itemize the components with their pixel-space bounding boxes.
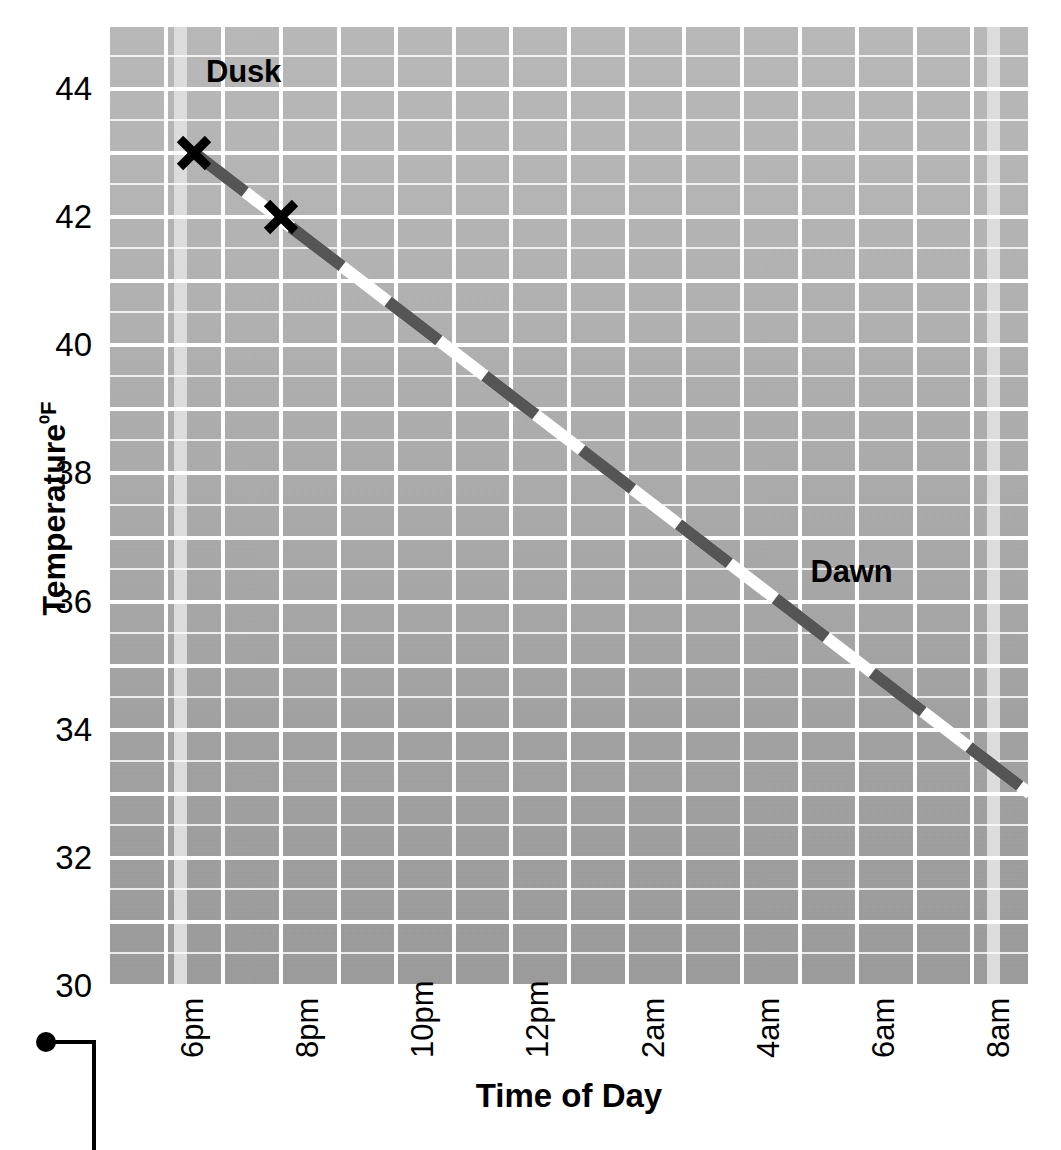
series-line-dashes (194, 153, 1030, 794)
y-tick-label: 32 (10, 841, 92, 874)
y-tick-label: 42 (10, 200, 92, 233)
y-tick-label: 44 (10, 72, 92, 105)
x-tick-label: 6pm (177, 998, 208, 1058)
x-tick-label: 8am (983, 998, 1014, 1058)
y-axis-title-text: Temperature (36, 424, 72, 615)
callout-leader-line (34, 1030, 114, 1150)
y-axis-unit: ⁰F (36, 402, 61, 424)
plot-area: Dusk Dawn (108, 25, 1030, 986)
x-tick-label: 2am (638, 998, 669, 1058)
annotation-dawn: Dawn (811, 554, 893, 590)
data-point-marker-x (259, 195, 303, 239)
annotation-dusk: Dusk (206, 54, 281, 90)
series-line-layer (108, 25, 1030, 986)
y-tick-label: 30 (10, 969, 92, 1002)
x-axis-title: Time of Day (108, 1077, 1030, 1115)
temperature-chart-figure: Dusk Dawn 3032343638404244 6pm8pm10pm12p… (0, 0, 1061, 1150)
y-tick-label: 40 (10, 328, 92, 361)
y-tick-label: 34 (10, 713, 92, 746)
x-tick-label: 6am (868, 998, 899, 1058)
x-tick-label: 4am (753, 998, 784, 1058)
x-tick-label: 8pm (292, 998, 323, 1058)
y-axis-title: Temperature⁰F (36, 359, 73, 659)
data-point-marker-x (172, 131, 216, 175)
x-tick-label: 12pm (522, 980, 553, 1058)
x-tick-label: 10pm (407, 980, 438, 1058)
